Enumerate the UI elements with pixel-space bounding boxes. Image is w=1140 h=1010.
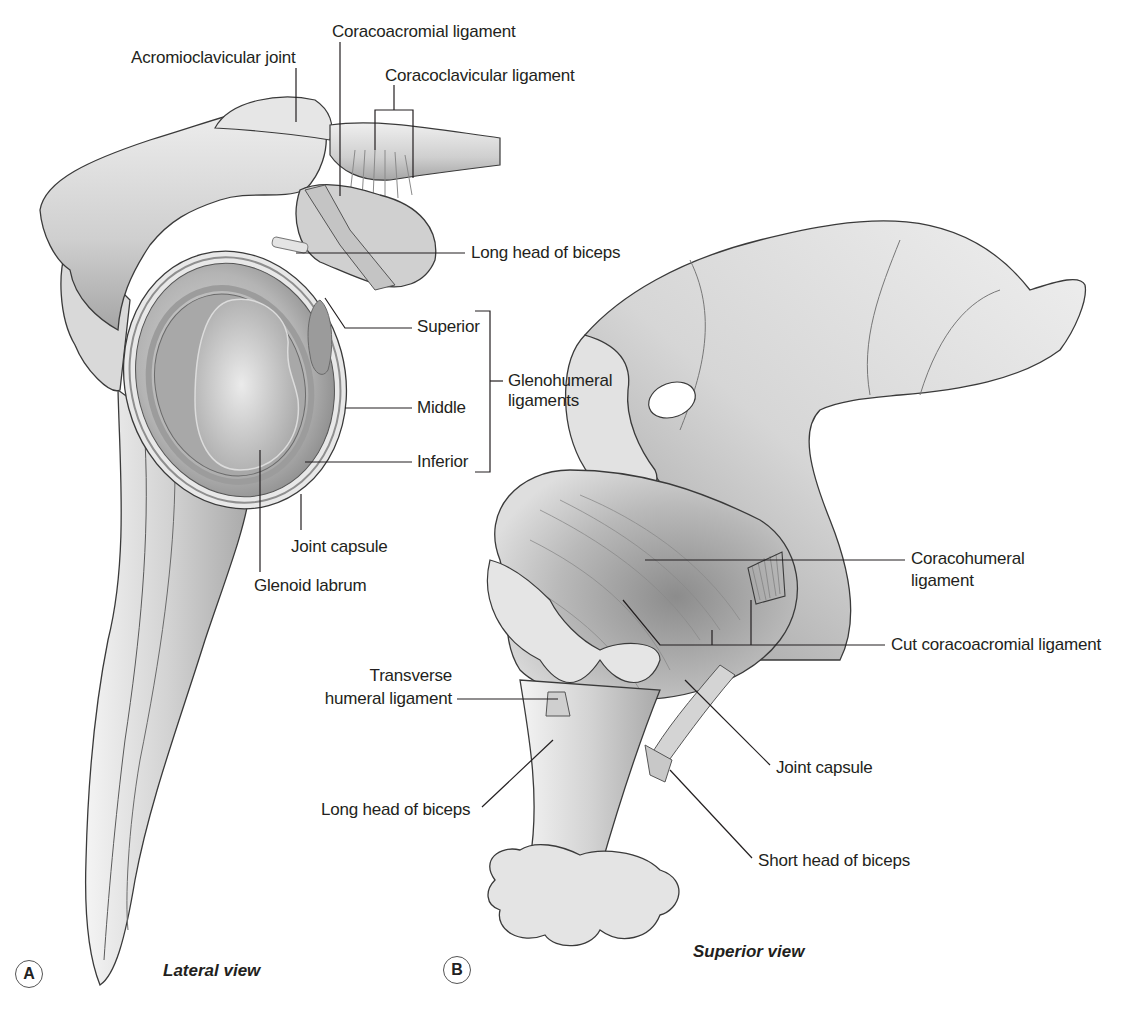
panel-a-illustration (40, 97, 500, 985)
label-short-head-of-biceps: Short head of biceps (758, 851, 910, 871)
panel-b-illustration (487, 221, 1085, 946)
caption-superior-view: Superior view (693, 942, 804, 962)
label-cut-coracoacromial-ligament: Cut coracoacromial ligament (891, 635, 1101, 655)
label-inferior-gh-ligament: Inferior (417, 452, 468, 472)
anatomy-illustration (0, 0, 1140, 1010)
label-joint-capsule-a: Joint capsule (291, 537, 388, 557)
label-transverse-humeral-ligament-line1: Transverse (340, 666, 452, 686)
label-coracohumeral-ligament-line1: Coracohumeral (911, 549, 1025, 569)
label-joint-capsule-b: Joint capsule (776, 758, 873, 778)
panel-badge-b: B (443, 956, 471, 984)
label-glenohumeral-ligaments-line1: Glenohumeral (508, 371, 612, 391)
label-long-head-of-biceps-b: Long head of biceps (321, 800, 470, 820)
label-acromioclavicular-joint: Acromioclavicular joint (131, 48, 296, 68)
label-middle-gh-ligament: Middle (417, 398, 466, 418)
label-transverse-humeral-ligament-line2: humeral ligament (300, 689, 452, 709)
caption-lateral-view: Lateral view (163, 961, 260, 981)
label-coracohumeral-ligament-line2: ligament (911, 571, 974, 591)
label-glenohumeral-ligaments-line2: ligaments (508, 391, 579, 411)
label-long-head-of-biceps-a: Long head of biceps (471, 243, 620, 263)
label-superior-gh-ligament: Superior (417, 317, 480, 337)
label-coracoclavicular-ligament: Coracoclavicular ligament (385, 66, 575, 86)
label-glenoid-labrum: Glenoid labrum (254, 576, 366, 596)
panel-badge-a: A (15, 960, 43, 988)
shoulder-ligaments-figure: Acromioclavicular joint Coracoacromial l… (0, 0, 1140, 1010)
label-coracoacromial-ligament: Coracoacromial ligament (332, 22, 515, 42)
